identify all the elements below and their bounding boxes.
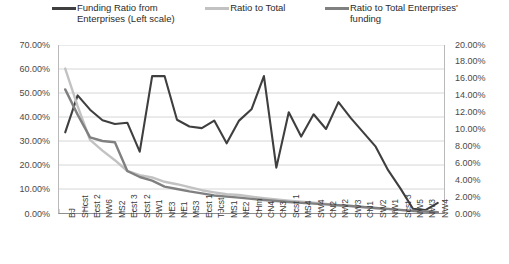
y-axis-right-tick-6: 12.00% (455, 107, 503, 118)
y-axis-right-tick-5: 10.00% (455, 124, 503, 135)
x-axis-tick-23: SW3 (354, 200, 363, 218)
x-axis-labels: BJSHcstEcst 2NW6MS2Ecst 3Scst 2SW1NE3NE1… (58, 216, 445, 264)
x-axis-tick-20: SW4 (317, 200, 326, 218)
y-axis-left-tick-3: 30.00% (2, 136, 50, 147)
x-axis-tick-11: Ecst 1 (205, 194, 214, 218)
y-axis-left-tick-2: 20.00% (2, 160, 50, 171)
x-axis-tick-10: MS3 (192, 201, 201, 218)
x-axis-tick-6: Scst 2 (143, 194, 152, 218)
x-axis-tick-13: MS1 (230, 201, 239, 218)
x-axis-tick-27: Scst 3 (404, 194, 413, 218)
y-axis-right-tick-9: 18.00% (455, 56, 503, 67)
legend-label-series-2: Ratio to Total Enterprises' funding (350, 2, 458, 24)
x-axis-tick-12: TJcst (217, 198, 226, 218)
x-axis-tick-28: NW5 (416, 199, 425, 218)
x-axis-tick-0: BJ (68, 208, 77, 218)
x-axis-tick-17: CN3 (279, 201, 288, 218)
x-axis-tick-7: SW1 (155, 200, 164, 218)
y-axis-right-tick-7: 14.00% (455, 90, 503, 101)
y-axis-right-tick-4: 8.00% (455, 141, 503, 152)
x-axis-tick-22: NW2 (341, 199, 350, 218)
x-axis-tick-4: MS2 (118, 201, 127, 218)
y-axis-right-tick-2: 4.00% (455, 175, 503, 186)
y-axis-left-tick-7: 70.00% (2, 40, 50, 51)
x-axis-tick-3: NW6 (105, 199, 114, 218)
x-axis-tick-21: CN2 (329, 201, 338, 218)
plot-area (58, 45, 445, 214)
x-axis-tick-25: SW2 (379, 200, 388, 218)
x-axis-tick-18: Scst 1 (292, 194, 301, 218)
y-axis-left-tick-0: 0.00% (2, 209, 50, 220)
series-line-0 (65, 76, 438, 210)
legend-item-ratio-to-total-enterprises-funding: Ratio to Total Enterprises' funding (325, 2, 492, 24)
x-axis-tick-9: NE1 (180, 201, 189, 218)
x-axis-tick-8: NE3 (168, 201, 177, 218)
series-line-1 (65, 69, 438, 213)
y-axis-right-tick-0: 0.00% (455, 209, 503, 220)
plot-svg (59, 45, 444, 213)
x-axis-tick-19: MS4 (304, 201, 313, 218)
y-axis-left-tick-1: 10.00% (2, 184, 50, 195)
legend-swatch-series-0 (52, 7, 76, 10)
legend-item-ratio-to-total: Ratio to Total (205, 2, 315, 13)
y-axis-left-tick-4: 40.00% (2, 112, 50, 123)
legend-swatch-series-2 (325, 7, 349, 10)
y-axis-right-tick-10: 20.00% (455, 40, 503, 51)
x-axis-tick-24: CN1 (366, 201, 375, 218)
x-axis-tick-16: CN4 (267, 201, 276, 218)
x-axis-tick-15: CHm (255, 199, 264, 218)
x-axis-tick-26: NW1 (391, 199, 400, 218)
y-axis-right-tick-8: 16.00% (455, 73, 503, 84)
x-axis-tick-5: Ecst 3 (130, 194, 139, 218)
y-axis-left-tick-5: 50.00% (2, 88, 50, 99)
y-axis-left-tick-6: 60.00% (2, 64, 50, 75)
x-axis-tick-29: NW3 (428, 199, 437, 218)
x-axis-tick-30: NW4 (441, 199, 450, 218)
y-axis-right-tick-1: 2.00% (455, 192, 503, 203)
legend-label-series-1: Ratio to Total (230, 2, 285, 13)
x-axis-tick-1: SHcst (81, 195, 90, 218)
chart-container: Funding Ratio from Enterprises (Left sca… (0, 0, 509, 264)
y-axis-right-tick-3: 6.00% (455, 158, 503, 169)
x-axis-tick-14: NE2 (242, 201, 251, 218)
chart-legend: Funding Ratio from Enterprises (Left sca… (52, 2, 502, 34)
x-axis-tick-2: Ecst 2 (93, 194, 102, 218)
legend-label-series-0: Funding Ratio from Enterprises (Left sca… (77, 2, 175, 24)
legend-swatch-series-1 (205, 7, 229, 10)
legend-item-funding-ratio-from-enterprises: Funding Ratio from Enterprises (Left sca… (52, 2, 195, 24)
